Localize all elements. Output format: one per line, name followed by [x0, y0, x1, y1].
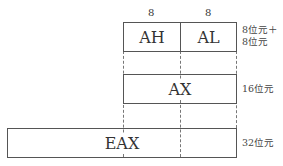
register-ax: AX [123, 74, 237, 104]
register-al-label: AL [197, 28, 219, 47]
size-label-eax: 32位元 [242, 137, 274, 149]
register-ah-label: AH [139, 28, 165, 47]
register-eax-label: EAX [104, 134, 141, 153]
register-ax-label: AX [168, 80, 193, 99]
register-al: AL [180, 22, 237, 52]
register-eax: EAX [7, 128, 237, 158]
size-label-ax: 16位元 [242, 83, 274, 95]
register-ah: AH [123, 22, 181, 52]
size-label-ah-al-line2: 8位元 [242, 36, 278, 48]
size-label-ah-al: 8位元＋ 8位元 [242, 24, 278, 48]
bit-count-label-ah: 8 [148, 7, 154, 18]
bit-count-label-al: 8 [205, 7, 211, 18]
size-label-ah-al-line1: 8位元＋ [242, 24, 278, 36]
